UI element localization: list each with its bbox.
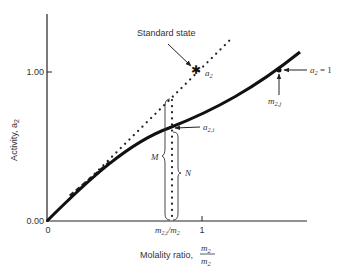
- label-N: N: [184, 168, 192, 178]
- y-tick-label-0: 0.00: [26, 216, 44, 226]
- real-activity-curve: [47, 52, 300, 221]
- label-M: M: [150, 152, 159, 162]
- x-tick-label-1: 1: [199, 225, 204, 235]
- y-axis-label: Activity, a2: [9, 119, 20, 161]
- x-axis-label: Molality ratio,: [140, 250, 193, 260]
- a2i-label: a2,i: [203, 122, 214, 133]
- a2-standard-label: a2: [205, 68, 214, 79]
- a2-eq-1-label: a2 = 1: [310, 65, 332, 76]
- activity-diagram: 1.00 0.00 0 1 Activity, a2 Molality rati…: [0, 0, 340, 270]
- standard-state-star-icon: ✱: [191, 63, 201, 77]
- a2-eq-1-point: [277, 68, 282, 73]
- standard-state-label: Standard state: [137, 28, 196, 38]
- a2i-arrow: [175, 127, 200, 128]
- standard-state-arrow: [168, 44, 191, 66]
- x-frac-num: m2: [201, 243, 212, 254]
- m2i-ratio-label: m2,i/m2: [155, 225, 180, 236]
- y-tick-label-1: 1.00: [26, 67, 44, 77]
- bracket-N: [173, 132, 181, 220]
- m2j-label: m2,j: [268, 96, 281, 107]
- x-frac-den: m2: [201, 256, 212, 267]
- x-origin-label: 0: [45, 225, 50, 235]
- bracket-M: [162, 99, 170, 220]
